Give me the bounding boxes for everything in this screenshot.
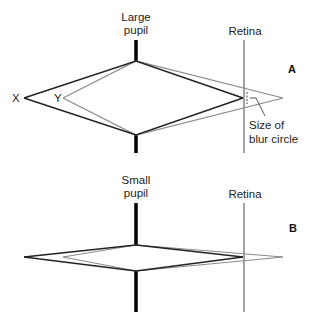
ray-grey-lower-b bbox=[63, 257, 283, 271]
large-pupil-label-line1: Large bbox=[121, 11, 150, 24]
optics-diagram bbox=[0, 0, 316, 329]
panel-a-diagram bbox=[24, 40, 283, 153]
ray-grey-upper-b bbox=[63, 245, 283, 257]
panel-b-tag: B bbox=[289, 222, 297, 234]
panel-b-diagram bbox=[24, 203, 283, 312]
small-pupil-label-line2: pupil bbox=[124, 187, 148, 200]
ray-y-upper bbox=[63, 61, 283, 98]
blur-circle-label-line2: blur circle bbox=[249, 133, 298, 146]
panel-a-tag: A bbox=[288, 63, 296, 75]
retina-label-b: Retina bbox=[228, 188, 261, 201]
blur-circle-leader bbox=[250, 98, 265, 116]
retina-label-a: Retina bbox=[228, 25, 261, 38]
blur-circle-label-line1: Size of bbox=[249, 119, 284, 132]
point-y-label: Y bbox=[54, 92, 62, 105]
large-pupil-label-line2: pupil bbox=[124, 24, 148, 37]
small-pupil-label-line1: Small bbox=[122, 174, 151, 187]
point-x-label: X bbox=[12, 92, 20, 105]
